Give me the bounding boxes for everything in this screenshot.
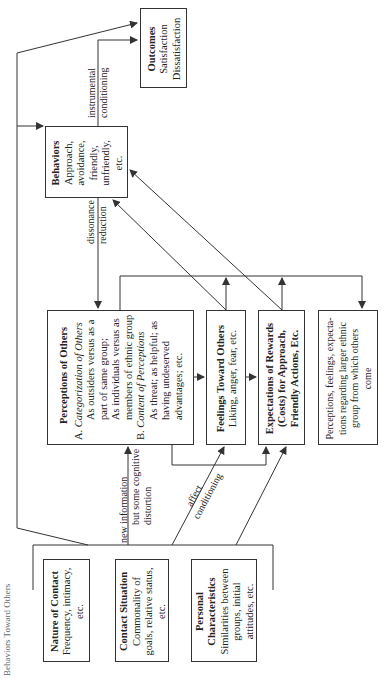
perceptions-item: As threat; as helpful; as [148, 311, 161, 440]
expectations-title-line: Friendly Actions, Etc. [289, 311, 302, 446]
new-information-label: new information but some cognitive disto… [118, 449, 154, 543]
behaviors-line: avoidance, [75, 127, 88, 199]
personal-characteristics-title: Characteristics [206, 560, 219, 663]
contact-situation-line: etc. [156, 560, 169, 663]
perceptions-item: members of ethnic group [123, 311, 136, 440]
larger-group-line: come [362, 311, 375, 446]
perceptions-item: advantages; etc. [173, 311, 186, 440]
outcomes-line: Satisfaction [158, 9, 171, 89]
feelings-title: Feelings Toward Others [215, 311, 228, 446]
perceptions-title: Perceptions of Others [58, 311, 71, 440]
personal-characteristics-box: Personal Characteristics Similarities be… [191, 559, 257, 662]
feelings-toward-others-box: Feelings Toward Others Liking, anger, fe… [206, 310, 246, 445]
contact-situation-line: Commonality of [131, 560, 144, 663]
personal-characteristics-line: Similarities between [219, 560, 232, 663]
feelings-text: Liking, anger, fear, etc. [227, 311, 240, 446]
outcomes-title: Outcomes [146, 9, 159, 89]
behaviors-line: friendly, [88, 127, 101, 199]
expectations-title-line: Expectations of Rewards [264, 311, 277, 446]
dissonance-reduction-label: dissonance reduction [85, 200, 109, 244]
larger-group-line: group from which others [349, 311, 362, 446]
behaviors-line: etc. [113, 127, 126, 199]
personal-characteristics-title: Personal [194, 560, 207, 663]
perceptions-item: part of same group; [98, 311, 111, 440]
nature-of-contact-box: Nature of Contact Frequency, intimacy, e… [43, 559, 90, 662]
personal-characteristics-line: groups, initial [231, 560, 244, 663]
outcomes-box: Outcomes Satisfaction Dissatisfaction [140, 8, 187, 88]
contact-situation-box: Contact Situation Commonality of goals, … [115, 559, 169, 662]
nature-of-contact-line: etc. [74, 560, 87, 663]
contact-situation-line: goals, relative status, [143, 560, 156, 663]
expectations-box: Expectations of Rewards (Costs) for Appr… [258, 310, 305, 445]
behaviors-title: Behaviors [50, 127, 63, 199]
outcomes-line: Dissatisfaction [171, 9, 184, 89]
behaviors-line: unfriendly, [100, 127, 113, 199]
nature-of-contact-line: Frequency, intimacy, [61, 560, 74, 663]
personal-characteristics-line: attitudes, etc. [244, 560, 257, 663]
larger-group-line: tions regarding larger ethnic [337, 311, 350, 446]
behaviors-line: Approach, [63, 127, 76, 199]
nature-of-contact-title: Nature of Contact [49, 560, 62, 663]
perceptions-section-b: B. Content of Perceptions [135, 311, 148, 440]
larger-group-line: Perceptions, feelings, expecta- [324, 311, 337, 446]
perceptions-section-a: A. Categorization of Others [73, 311, 86, 440]
perceptions-item: having undeserved [160, 311, 173, 440]
instrumental-conditioning-label: instrumental conditioning [86, 67, 110, 118]
behaviors-box: Behaviors Approach, avoidance, friendly,… [45, 126, 128, 198]
contact-situation-title: Contact Situation [118, 560, 131, 663]
expectations-title-line: (Costs) for Approach, [276, 311, 289, 446]
larger-ethnic-group-box: Perceptions, feelings, expecta- tions re… [318, 310, 378, 445]
perceptions-item: As individuals versus as [110, 311, 123, 440]
perceptions-item: As outsiders versus as a [85, 311, 98, 440]
perceptions-of-others-box: Perceptions of Others A. Categorization … [47, 310, 194, 445]
